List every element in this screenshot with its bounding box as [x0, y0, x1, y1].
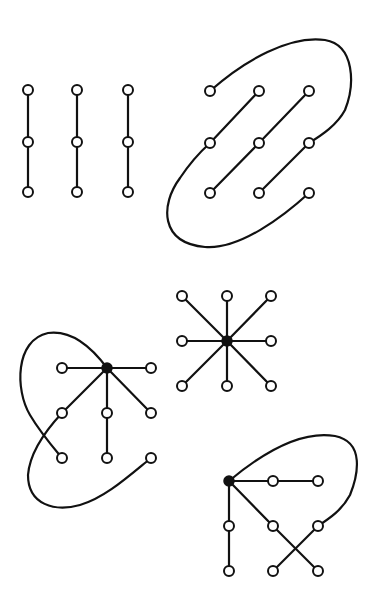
vertex [57, 363, 67, 373]
figure-star [177, 291, 276, 391]
vertex [254, 86, 264, 96]
vertex [57, 453, 67, 463]
graph-edge [107, 368, 151, 413]
vertex [266, 336, 276, 346]
vertex [177, 336, 187, 346]
vertex [304, 188, 314, 198]
vertex [254, 188, 264, 198]
graph-edge [227, 296, 271, 341]
vertex [268, 566, 278, 576]
vertex [123, 137, 133, 147]
vertex [222, 381, 232, 391]
figure-hub-right-loop [224, 435, 357, 576]
vertex [205, 188, 215, 198]
vertex [123, 187, 133, 197]
hub-vertex [224, 476, 234, 486]
graph-diagram-canvas [0, 0, 375, 609]
vertex [268, 476, 278, 486]
vertex [266, 381, 276, 391]
graph-edge [210, 91, 259, 143]
vertex [57, 408, 67, 418]
loop-curve [167, 143, 309, 247]
loop-curve [210, 39, 351, 143]
loop-curve [20, 333, 107, 458]
graph-edge [210, 143, 259, 193]
vertex [72, 85, 82, 95]
vertex [254, 138, 264, 148]
vertex [146, 453, 156, 463]
vertex [205, 138, 215, 148]
vertex [313, 521, 323, 531]
vertex [146, 363, 156, 373]
graph-edge [62, 368, 107, 413]
graph-edge [259, 91, 309, 143]
graph-edge [259, 143, 309, 193]
vertex [72, 187, 82, 197]
vertex [72, 137, 82, 147]
vertex [224, 566, 234, 576]
graph-edge [227, 341, 271, 386]
vertex [102, 408, 112, 418]
figure-grid-loop [167, 39, 351, 247]
vertex [313, 476, 323, 486]
graph-edge [182, 341, 227, 386]
vertex [205, 86, 215, 96]
vertex [304, 86, 314, 96]
graph-edge [229, 481, 273, 526]
hub-vertex [102, 363, 112, 373]
vertex [102, 453, 112, 463]
vertex [304, 138, 314, 148]
vertex [224, 521, 234, 531]
vertex [23, 187, 33, 197]
graph-edge [182, 296, 227, 341]
loop-curve [28, 413, 151, 507]
hub-vertex [222, 336, 232, 346]
vertex [23, 85, 33, 95]
vertex [146, 408, 156, 418]
figure-three-paths [23, 85, 133, 197]
vertex [177, 291, 187, 301]
vertex [222, 291, 232, 301]
vertex [313, 566, 323, 576]
vertex [266, 291, 276, 301]
vertex [23, 137, 33, 147]
figure-hub-left-loop [20, 333, 156, 508]
vertex [177, 381, 187, 391]
vertex [268, 521, 278, 531]
vertex [123, 85, 133, 95]
